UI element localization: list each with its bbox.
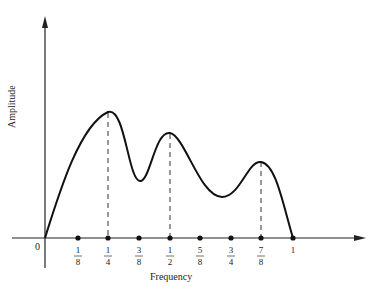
svg-text:1: 1 [76,245,81,255]
y-axis-arrow-icon [42,16,48,28]
svg-text:4: 4 [229,257,234,267]
svg-text:1: 1 [291,245,296,255]
svg-text:3: 3 [137,245,142,255]
svg-text:1: 1 [106,245,111,255]
x-axis-label: Frequency [150,271,192,282]
svg-text:8: 8 [76,257,81,267]
svg-text:2: 2 [168,257,173,267]
svg-text:1: 1 [168,245,173,255]
x-axis-arrow-icon [354,235,366,241]
svg-text:8: 8 [259,257,264,267]
origin-label: 0 [35,241,40,252]
tick-labels: 1 8 1 4 3 8 1 2 5 8 3 4 7 8 1 [74,245,295,267]
amplitude-frequency-chart: 0 1 8 1 4 3 8 1 2 5 8 3 4 7 8 1 [0,0,380,293]
svg-text:8: 8 [198,257,203,267]
svg-text:4: 4 [106,257,111,267]
dashed-guides [108,113,261,238]
svg-text:5: 5 [198,245,203,255]
y-axis-label: Amplitude [6,85,17,128]
svg-text:8: 8 [137,257,142,267]
svg-text:7: 7 [259,245,264,255]
svg-text:3: 3 [229,245,234,255]
amplitude-curve [45,112,293,238]
